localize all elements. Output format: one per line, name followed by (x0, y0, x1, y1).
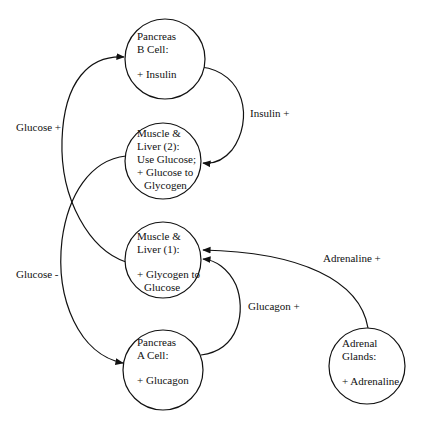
svg-text:+ Insulin: + Insulin (137, 68, 177, 80)
edge-glucagon (201, 259, 240, 355)
svg-text:B Cell:: B Cell: (137, 43, 168, 55)
svg-text:+ Glucagon: + Glucagon (137, 374, 189, 386)
edges (61, 57, 368, 363)
svg-text:Liver (2):: Liver (2): (137, 140, 179, 153)
edge-glucose-minus (61, 156, 126, 363)
node-muscle-liver-2: Muscle & Liver (2): Use Glucose; + Gluco… (125, 123, 201, 199)
label-glucagon: Glucagon + (248, 300, 300, 312)
svg-text:Pancreas: Pancreas (137, 30, 176, 42)
edge-glucose-plus (62, 57, 126, 262)
svg-text:Use Glucose;: Use Glucose; (137, 153, 196, 165)
svg-text:Glucose: Glucose (144, 281, 180, 293)
svg-text:Muscle &: Muscle & (137, 127, 181, 139)
svg-text:Liver (1):: Liver (1): (137, 243, 179, 256)
svg-text:Pancreas: Pancreas (137, 336, 176, 348)
svg-text:+ Glycogen to: + Glycogen to (137, 268, 201, 280)
node-pancreas-b: Pancreas B Cell: + Insulin (125, 19, 205, 99)
svg-text:+ Adrenaline: + Adrenaline (342, 375, 399, 387)
node-pancreas-a: Pancreas A Cell: + Glucagon (123, 330, 203, 410)
label-adrenaline: Adrenaline + (323, 252, 381, 264)
svg-text:Adrenal: Adrenal (342, 337, 377, 349)
node-adrenal-glands: Adrenal Glands: + Adrenaline (329, 328, 405, 404)
node-muscle-liver-1: Muscle & Liver (1): + Glycogen to Glucos… (125, 222, 201, 298)
svg-text:Glycogen: Glycogen (144, 179, 187, 191)
svg-text:A Cell:: A Cell: (137, 349, 168, 361)
glucose-regulation-diagram: Insulin + Glucose + Glucose - Glucagon +… (0, 0, 424, 423)
label-glucose-minus: Glucose - (16, 268, 59, 280)
svg-text:Glands:: Glands: (342, 350, 376, 362)
svg-text:+ Glucose to: + Glucose to (137, 166, 194, 178)
label-glucose-plus: Glucose + (16, 121, 61, 133)
label-insulin: Insulin + (250, 107, 290, 119)
edge-labels: Insulin + Glucose + Glucose - Glucagon +… (16, 107, 381, 312)
svg-text:Muscle &: Muscle & (137, 230, 181, 242)
edge-insulin (201, 67, 244, 163)
